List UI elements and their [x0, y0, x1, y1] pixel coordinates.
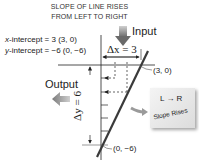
callout-pointer-arrow — [131, 108, 148, 116]
function-line — [97, 51, 148, 157]
left-arrow-icon — [52, 92, 70, 106]
y-intercept-point-label: (0, −6) — [113, 144, 136, 153]
graph-svg — [0, 0, 199, 161]
x-intercept-point-label: (3, 0) — [153, 66, 172, 75]
input-label: Input — [132, 25, 156, 37]
delta-x-label: Δx = 3 — [107, 43, 137, 55]
dashed-projections — [105, 62, 127, 92]
output-label: Output — [45, 78, 78, 90]
y-axis-ticks — [101, 78, 108, 131]
callout-caption: Slope Rises — [153, 106, 188, 120]
delta-y-label: Δy = 6 — [71, 91, 83, 121]
slope-callout-box: L → R Slope Rises — [150, 88, 195, 128]
callout-direction: L → R — [160, 94, 182, 103]
